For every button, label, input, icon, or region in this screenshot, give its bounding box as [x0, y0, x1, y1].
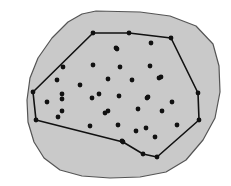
- hull-vertex-point: [169, 36, 174, 41]
- hull-vertex-point: [34, 118, 39, 123]
- region-layer: [27, 11, 220, 178]
- interior-point: [160, 109, 165, 114]
- hull-vertex-point: [127, 31, 132, 36]
- interior-point: [60, 109, 65, 114]
- interior-point: [130, 78, 135, 83]
- interior-point: [144, 126, 149, 131]
- convex-hull-diagram: [0, 0, 231, 186]
- interior-point: [117, 94, 122, 99]
- interior-point: [60, 97, 65, 102]
- interior-point: [116, 123, 121, 128]
- interior-point: [170, 100, 175, 105]
- interior-point: [120, 139, 125, 144]
- hull-vertex-point: [155, 155, 160, 160]
- hull-vertex-point: [91, 31, 96, 36]
- interior-point: [134, 129, 139, 134]
- interior-point: [88, 124, 93, 129]
- hull-vertex-point: [196, 91, 201, 96]
- interior-point: [97, 92, 102, 97]
- interior-point: [153, 135, 158, 140]
- interior-point: [106, 77, 111, 82]
- interior-point: [118, 65, 123, 70]
- interior-point: [55, 78, 60, 83]
- interior-point: [61, 65, 66, 70]
- interior-point: [145, 96, 150, 101]
- figure-container: [0, 0, 231, 186]
- interior-point: [90, 96, 95, 101]
- interior-point: [91, 63, 96, 68]
- interior-point: [157, 76, 162, 81]
- interior-point: [45, 100, 50, 105]
- hull-vertex-point: [31, 90, 36, 95]
- interior-point: [136, 107, 141, 112]
- interior-point: [149, 41, 154, 46]
- interior-point: [56, 115, 61, 120]
- interior-point: [106, 109, 111, 114]
- hull-vertex-point: [197, 118, 202, 123]
- interior-point: [148, 64, 153, 69]
- hull-vertex-point: [141, 152, 146, 157]
- interior-point: [78, 83, 83, 88]
- interior-point: [175, 123, 180, 128]
- interior-point: [60, 92, 65, 97]
- shaded-region: [27, 11, 220, 178]
- interior-point: [115, 47, 120, 52]
